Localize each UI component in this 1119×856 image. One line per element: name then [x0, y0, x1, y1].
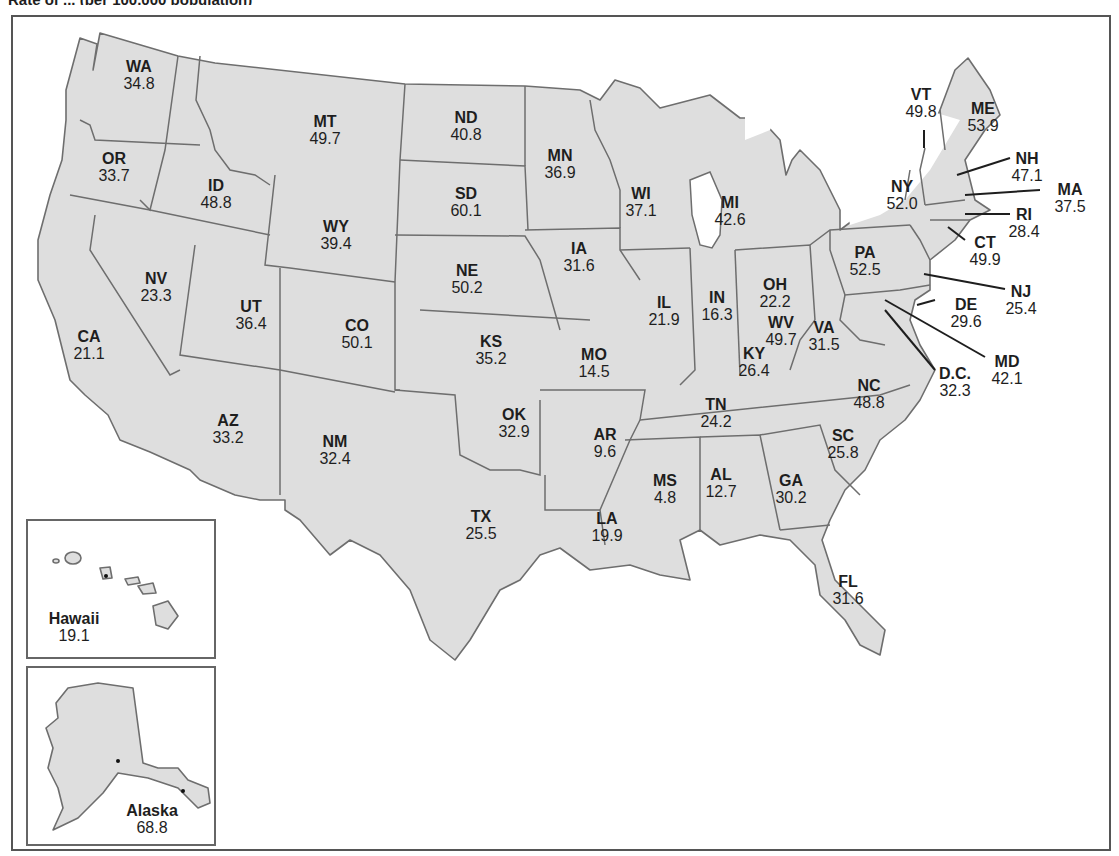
state-label-mt: MT49.7	[309, 113, 340, 147]
state-label-ny: NY52.0	[886, 178, 917, 212]
state-label-ok: OK32.9	[498, 406, 529, 440]
state-label-wi: WI37.1	[625, 185, 656, 219]
state-label-il: IL21.9	[648, 294, 679, 328]
state-label-ga: GA30.2	[775, 472, 806, 506]
state-label-mn: MN36.9	[544, 147, 575, 181]
state-label-al: AL12.7	[705, 466, 736, 500]
state-label-wv: WV49.7	[765, 314, 796, 348]
state-label-hawaii: Hawaii19.1	[49, 610, 100, 644]
state-label-md: MD42.1	[991, 353, 1022, 387]
state-label-de: DE29.6	[950, 296, 981, 330]
state-label-mi: MI42.6	[714, 194, 745, 228]
state-label-co: CO50.1	[341, 317, 372, 351]
state-label-nd: ND40.8	[450, 109, 481, 143]
state-label-ut: UT36.4	[235, 298, 266, 332]
state-label-nc: NC48.8	[853, 377, 884, 411]
state-label-ct: CT49.9	[969, 234, 1000, 268]
state-label-ia: IA31.6	[563, 240, 594, 274]
alaska-inset	[26, 666, 216, 846]
state-label-va: VA31.5	[808, 319, 839, 353]
state-label-id: ID48.8	[200, 177, 231, 211]
state-label-ks: KS35.2	[475, 333, 506, 367]
state-label-oh: OH22.2	[759, 276, 790, 310]
state-label-pa: PA52.5	[849, 244, 880, 278]
state-label-in: IN16.3	[701, 289, 732, 323]
state-label-wy: WY39.4	[320, 218, 351, 252]
state-label-vt: VT49.8	[905, 86, 936, 120]
state-label-nv: NV23.3	[140, 270, 171, 304]
state-label-ms: MS4.8	[653, 472, 677, 506]
state-label-wa: WA34.8	[123, 58, 154, 92]
state-label-ma: MA37.5	[1054, 181, 1085, 215]
state-label-tx: TX25.5	[465, 508, 496, 542]
state-label-nh: NH47.1	[1011, 150, 1042, 184]
state-label-mo: MO14.5	[578, 346, 609, 380]
state-label-ri: RI28.4	[1008, 206, 1039, 240]
state-label-tn: TN24.2	[700, 396, 731, 430]
state-label-nm: NM32.4	[319, 433, 350, 467]
alaska-shape	[28, 668, 214, 844]
state-label-ca: CA21.1	[73, 328, 104, 362]
state-label-az: AZ33.2	[212, 412, 243, 446]
state-label-alaska: Alaska68.8	[126, 802, 178, 836]
state-label-nj: NJ25.4	[1005, 283, 1036, 317]
state-label-or: OR33.7	[98, 150, 129, 184]
state-label-la: LA19.9	[591, 510, 622, 544]
state-label-ky: KY26.4	[738, 345, 769, 379]
state-label-me: ME53.9	[967, 100, 998, 134]
state-label-ar: AR9.6	[593, 426, 616, 460]
state-label-sc: SC25.8	[827, 427, 858, 461]
state-label-fl: FL31.6	[832, 573, 863, 607]
state-label-sd: SD60.1	[450, 185, 481, 219]
state-label-ne: NE50.2	[451, 262, 482, 296]
state-label-dc: D.C.32.3	[939, 365, 971, 399]
